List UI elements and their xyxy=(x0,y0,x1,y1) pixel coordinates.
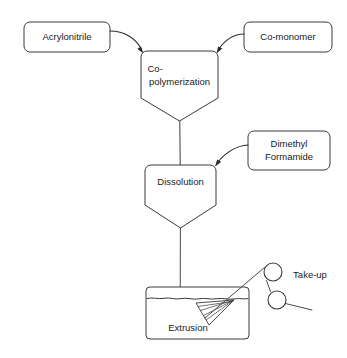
connector-co-monomer-to-copolymerization xyxy=(217,34,245,54)
connector-dimethyl-formamide-to-dissolution xyxy=(215,145,248,167)
dissolution-vessel-shape xyxy=(145,165,216,228)
take-up-roller-lower[interactable] xyxy=(268,291,286,309)
dimethyl-formamide-arrow-line xyxy=(218,145,249,163)
feed-box-acrylonitrile[interactable]: Acrylonitrile xyxy=(24,22,110,52)
take-up-label: Take-up xyxy=(293,269,327,280)
feed-box-co-monomer[interactable]: Co-monomer xyxy=(244,22,332,52)
dimethyl-formamide-arrow-head-icon xyxy=(215,160,221,167)
co-monomer-label: Co-monomer xyxy=(260,31,315,42)
vessel-dissolution[interactable]: Dissolution xyxy=(145,165,216,228)
co-monomer-arrow-line xyxy=(219,34,245,50)
extrusion-label: Extrusion xyxy=(168,322,208,333)
take-up-roller-lower-shape xyxy=(268,291,286,309)
co-polymerization-label-line1: Co- xyxy=(148,63,163,74)
dimethyl-formamide-label-line2: Formamide xyxy=(265,151,313,162)
process-flow-diagram: Acrylonitrile Co-monomer Dimethyl Formam… xyxy=(0,0,347,358)
acrylonitrile-label: Acrylonitrile xyxy=(42,31,91,42)
extrusion-bath-tank[interactable]: Extrusion xyxy=(146,287,249,339)
connector-acrylonitrile-to-copolymerization xyxy=(110,31,144,54)
co-monomer-arrow-head-icon xyxy=(217,46,223,53)
take-up-exit-fiber-line xyxy=(286,304,313,311)
feed-box-dimethyl-formamide[interactable]: Dimethyl Formamide xyxy=(248,131,330,170)
take-up-roller-upper-shape xyxy=(264,263,282,281)
take-up-roller-upper[interactable] xyxy=(264,263,282,281)
co-polymerization-label-line2: polymerization xyxy=(149,76,210,87)
vessel-co-polymerization[interactable]: Co- polymerization xyxy=(141,51,218,121)
acrylonitrile-arrow-line xyxy=(110,31,142,50)
roller-transfer-fiber-line xyxy=(267,281,271,292)
dimethyl-formamide-label-line1: Dimethyl xyxy=(271,138,308,149)
dissolution-label: Dissolution xyxy=(157,176,203,187)
diagram-canvas: Acrylonitrile Co-monomer Dimethyl Formam… xyxy=(0,0,347,358)
